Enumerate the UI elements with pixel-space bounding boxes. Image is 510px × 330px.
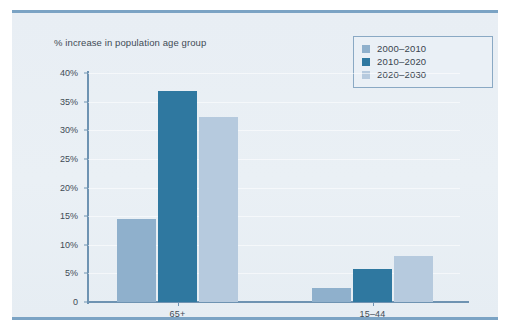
bar[interactable] xyxy=(117,219,156,302)
gridline xyxy=(88,159,460,160)
y-axis-tick-label: 35% xyxy=(42,97,78,107)
gridline xyxy=(88,130,460,131)
legend-item-label: 2010–2020 xyxy=(377,56,426,67)
legend-swatch-icon xyxy=(362,58,370,66)
y-axis-tick-label: 5% xyxy=(42,268,78,278)
y-axis-tick-mark xyxy=(84,101,88,102)
y-axis-tick-mark xyxy=(84,130,88,131)
x-axis-tick-mark xyxy=(373,302,374,306)
figure-container: % increase in population age group 2000–… xyxy=(12,10,498,320)
legend-item-label: 2000–2010 xyxy=(377,43,426,54)
y-axis-tick-label: 10% xyxy=(42,240,78,250)
legend-swatch-icon xyxy=(362,45,370,53)
chart-panel: % increase in population age group 2000–… xyxy=(12,13,498,317)
y-axis-tick-label: 15% xyxy=(42,211,78,221)
y-axis-tick-label: 25% xyxy=(42,154,78,164)
gridline xyxy=(88,216,460,217)
gridline xyxy=(88,102,460,103)
legend-item[interactable]: 2000–2010 xyxy=(362,42,484,55)
y-axis-tick-label: 20% xyxy=(42,183,78,193)
bar[interactable] xyxy=(394,256,433,302)
gridline xyxy=(88,73,460,74)
gridline xyxy=(88,188,460,189)
bottom-rule xyxy=(12,317,498,320)
chart-title: % increase in population age group xyxy=(54,37,206,48)
y-axis-tick-mark xyxy=(84,302,88,303)
y-axis-tick-label: 40% xyxy=(42,68,78,78)
plot-area xyxy=(88,73,460,302)
y-axis-tick-mark xyxy=(84,158,88,159)
bar[interactable] xyxy=(158,91,197,302)
bar[interactable] xyxy=(312,288,351,302)
y-axis-tick-mark xyxy=(84,244,88,245)
y-axis-tick-mark xyxy=(84,216,88,217)
legend-item[interactable]: 2010–2020 xyxy=(362,55,484,68)
y-axis-tick-label: 30% xyxy=(42,125,78,135)
bar[interactable] xyxy=(199,117,238,302)
bar[interactable] xyxy=(353,269,392,302)
y-axis-tick-mark xyxy=(84,187,88,188)
x-axis-tick-mark xyxy=(178,302,179,306)
y-axis-tick-mark xyxy=(84,273,88,274)
y-axis-tick-label: 0 xyxy=(42,297,78,307)
y-axis-tick-mark xyxy=(84,73,88,74)
